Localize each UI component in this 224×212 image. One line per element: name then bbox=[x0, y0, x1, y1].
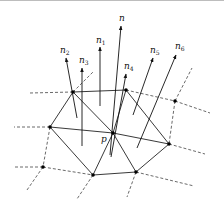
normal-label-n2: n2 bbox=[60, 45, 70, 56]
diagram-root: nn1n2n3n4n5n6 p bbox=[0, 0, 224, 212]
vertex-d bbox=[41, 165, 45, 169]
normal-label-n5: n5 bbox=[150, 45, 160, 56]
mesh-diagram: nn1n2n3n4n5n6 p bbox=[0, 0, 224, 212]
vertex-p bbox=[111, 131, 115, 135]
normal-arrow-n6 bbox=[137, 55, 176, 148]
vertex-h bbox=[173, 99, 177, 103]
triangle-fan-edges bbox=[50, 90, 169, 175]
vertex-c bbox=[48, 125, 52, 129]
center-vertex-label: p bbox=[101, 134, 107, 144]
vertex-a bbox=[71, 90, 75, 94]
vertex-e bbox=[91, 173, 95, 177]
normal-label-n1: n1 bbox=[96, 35, 106, 46]
normal-label-n: n bbox=[119, 13, 125, 23]
normal-label-n6: n6 bbox=[175, 41, 185, 52]
normal-arrow-n5 bbox=[133, 58, 153, 115]
normal-vectors: nn1n2n3n4n5n6 bbox=[60, 13, 185, 157]
vertex-g bbox=[134, 170, 138, 174]
normal-label-n4: n4 bbox=[124, 61, 134, 72]
vertex-f bbox=[167, 142, 171, 146]
normal-label-n3: n3 bbox=[79, 55, 89, 66]
vertex-b bbox=[124, 88, 128, 92]
normal-arrow-n2 bbox=[66, 58, 77, 118]
